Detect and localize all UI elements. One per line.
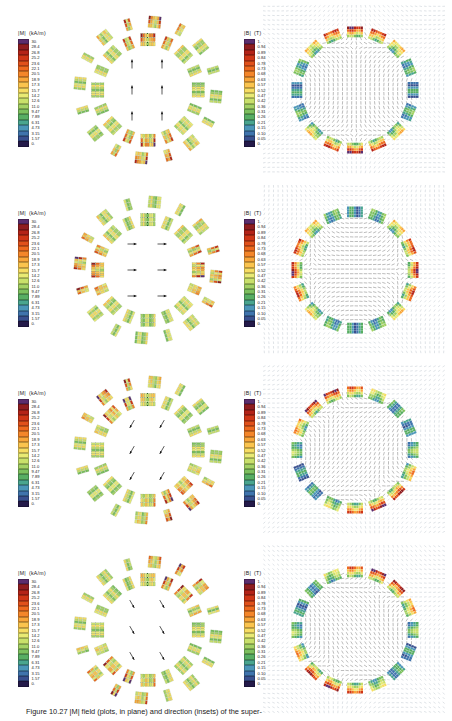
vector-arrow	[424, 241, 426, 243]
vector-arrow	[429, 467, 431, 468]
vector-arrow	[314, 213, 315, 215]
vector-arrow	[355, 434, 357, 437]
vector-arrow	[263, 702, 265, 703]
coil-tile	[83, 257, 87, 259]
coil-tile	[151, 323, 153, 327]
vector-arrow	[291, 300, 293, 302]
vector-arrow	[351, 384, 352, 386]
vector-arrow	[397, 578, 399, 580]
vector-arrow	[433, 375, 435, 376]
vector-arrow	[341, 195, 343, 196]
vector-arrow	[319, 10, 321, 12]
vector-arrow	[337, 420, 339, 423]
coil-tile	[142, 692, 144, 696]
colorbar-labels: 30.28.426.825.223.622.120.518.917.315.71…	[32, 39, 40, 147]
vector-arrow	[378, 56, 380, 58]
vector-arrow	[429, 134, 431, 135]
vector-arrow	[342, 457, 344, 460]
coil-block	[103, 116, 122, 135]
field-tile	[361, 151, 363, 154]
vector-arrow	[360, 605, 362, 608]
vector-arrow	[382, 282, 385, 283]
coil-tile	[159, 17, 161, 21]
coil-tile	[96, 85, 100, 87]
colorbar-swatch	[18, 141, 29, 146]
vector-arrow	[327, 278, 330, 279]
vector-arrow	[264, 457, 265, 459]
coil-tile	[78, 85, 82, 87]
coil-tile	[75, 619, 79, 621]
vector-arrow	[374, 370, 376, 371]
vector-arrow	[336, 670, 339, 671]
vector-arrow	[286, 56, 288, 58]
coil-cross-section	[304, 220, 323, 239]
vector-arrow	[369, 375, 371, 377]
vector-arrow	[310, 466, 311, 469]
vector-arrow	[286, 278, 289, 279]
vector-arrow	[292, 217, 293, 220]
vector-arrow	[438, 255, 440, 256]
coil-cross-section	[323, 388, 342, 404]
vector-arrow	[286, 435, 288, 437]
vector-arrow	[268, 106, 269, 108]
vector-arrow	[369, 655, 371, 657]
vector-arrow	[429, 388, 431, 390]
coil-tile	[192, 265, 196, 267]
vector-arrow	[419, 43, 421, 44]
vector-arrow	[368, 296, 371, 297]
vector-arrow	[342, 461, 344, 464]
vector-arrow	[365, 166, 366, 169]
field-tile	[356, 29, 358, 32]
vector-arrow	[434, 213, 435, 215]
vector-arrow	[286, 241, 288, 243]
vector-arrow	[282, 568, 284, 570]
vector-arrow	[310, 328, 311, 331]
vector-arrow	[420, 125, 422, 126]
vector-arrow	[333, 646, 334, 649]
vector-arrow	[269, 102, 270, 104]
vector-arrow	[415, 504, 417, 505]
field-tile	[361, 32, 363, 35]
coil-tile	[82, 622, 86, 624]
coil-tile	[82, 264, 86, 266]
vector-arrow	[434, 60, 436, 62]
coil-tile	[151, 138, 153, 142]
coil-tile	[75, 257, 79, 259]
vector-arrow	[323, 162, 325, 164]
vector-arrow	[327, 260, 330, 261]
field-tile	[354, 688, 356, 691]
vector-arrow	[373, 250, 376, 251]
vector-arrow	[420, 416, 421, 418]
vector-arrow	[429, 574, 432, 575]
vector-arrow	[319, 166, 321, 168]
vector-arrow	[346, 347, 349, 348]
vector-arrow	[268, 457, 269, 459]
field-tile	[358, 212, 360, 215]
field-direction-arrow	[160, 472, 165, 480]
vector-arrow	[420, 697, 422, 698]
vector-arrow	[282, 236, 284, 238]
coil-tile	[152, 560, 154, 564]
vector-arrow	[296, 702, 298, 704]
vector-arrow	[429, 305, 431, 307]
vector-arrow	[401, 573, 403, 575]
field-tile	[359, 145, 361, 148]
coil-block	[103, 656, 122, 675]
field-tile	[354, 691, 356, 694]
coil-tile	[151, 398, 153, 402]
vector-arrow	[282, 241, 284, 243]
vector-arrow	[406, 52, 408, 53]
vector-arrow	[268, 24, 271, 25]
vector-arrow	[347, 166, 348, 169]
vector-arrow	[424, 531, 426, 533]
vector-arrow	[268, 227, 270, 229]
coil-tile	[100, 445, 104, 447]
vector-arrow	[287, 600, 288, 603]
coil-block	[187, 64, 202, 76]
vector-arrow	[402, 531, 403, 533]
field-tile	[354, 323, 356, 326]
vector-arrow	[264, 60, 265, 62]
vector-arrow	[314, 148, 316, 149]
coil-tile	[196, 625, 200, 627]
coil-tile	[155, 556, 157, 560]
